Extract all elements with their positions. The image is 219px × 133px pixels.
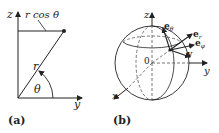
x-axis-b bbox=[128, 63, 152, 88]
x-label-b: x bbox=[112, 90, 118, 101]
panel-a: z r cos θ r θ y (a) bbox=[6, 8, 82, 127]
y-label-a: y bbox=[73, 98, 81, 111]
z-label-b: z bbox=[143, 9, 150, 20]
diagram-canvas: z r cos θ r θ y (a) bbox=[0, 0, 219, 133]
caption-a: (a) bbox=[8, 114, 26, 127]
radius-label: r bbox=[33, 60, 39, 73]
e-theta-label: eθ bbox=[164, 21, 174, 32]
projection-label: r cos θ bbox=[25, 9, 59, 20]
y-label-b: y bbox=[203, 65, 210, 76]
z-label-a: z bbox=[6, 8, 13, 21]
v-label: v bbox=[186, 49, 193, 59]
caption-b: (b) bbox=[113, 114, 131, 127]
projection-leader bbox=[38, 20, 46, 31]
radial-dashed bbox=[152, 50, 170, 63]
e-phi-label: eφ bbox=[195, 38, 206, 50]
point-marker bbox=[62, 29, 66, 33]
angle-arc bbox=[39, 71, 53, 98]
origin-label: 0 bbox=[144, 56, 150, 66]
panel-b: z y x 0 eθ er eφ v (b) bbox=[112, 9, 210, 127]
angle-label: θ bbox=[34, 83, 41, 96]
radius-line bbox=[18, 31, 64, 98]
